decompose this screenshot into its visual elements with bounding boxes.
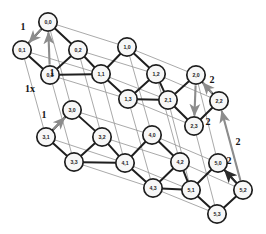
weighted-arrow [29,30,41,43]
dark-edge [82,162,116,163]
node-label: 4,1 [122,160,129,166]
arrow-weight-label: 2 [206,116,211,127]
graph-node[interactable]: 4,2 [171,153,189,171]
graph-node[interactable]: 1,0 [118,38,136,56]
lattice-graph-svg: 0,00,10,20,31,01,11,21,32,02,12,22,33,03… [0,0,266,234]
dark-edge [107,53,121,68]
graph-node[interactable]: 3,2 [93,128,111,146]
graph-node[interactable]: 3,3 [65,153,83,171]
node-label: 3,1 [43,134,50,140]
dark-edge [223,196,237,209]
dark-edge [197,169,212,184]
graph-node[interactable]: 3,0 [63,101,81,119]
arrow-weight-label: 2 [227,155,232,166]
graph-node[interactable]: 5,0 [209,154,227,172]
node-label: 2,3 [191,123,198,129]
dark-edge [52,143,67,157]
gray-edge [56,25,118,45]
arrow-weight-label: 1 [42,109,47,120]
node-label: 2,2 [216,98,223,104]
extra-label: 1x [25,83,35,94]
graph-node[interactable]: 0,1 [13,41,31,59]
node-label: 4,0 [149,132,156,138]
dark-edge [136,99,159,100]
arrow-weight-label: 2 [210,74,215,85]
dark-edge [161,188,182,189]
node-label: 5,1 [188,187,195,193]
graph-node[interactable]: 2,2 [210,92,228,110]
weighted-arrow [194,85,195,115]
graph-node[interactable]: 1,3 [119,90,137,108]
node-label: 1,2 [153,71,160,77]
node-label: 2,1 [165,97,172,103]
extra-label-layer: 1x [25,83,35,94]
node-label: 1,3 [125,96,132,102]
graph-node[interactable]: 0,2 [69,41,87,59]
node-label: 4,2 [177,159,184,165]
graph-node[interactable]: 4,1 [116,154,134,172]
node-label: 1,1 [98,71,105,77]
dark-edge [174,106,188,120]
dark-edge [84,56,95,68]
node-label: 5,3 [214,211,221,217]
graph-node[interactable]: 3,1 [37,128,55,146]
node-label: 2,0 [193,72,200,78]
gray-edge [82,165,144,186]
node-label: 0,1 [19,47,26,53]
node-label: 0,0 [45,19,52,25]
node-label: 0,2 [75,47,82,53]
graph-node[interactable]: 5,3 [208,205,226,223]
node-label: 5,2 [240,187,247,193]
node-label: 5,0 [215,160,222,166]
dark-edge [56,56,71,70]
dark-edge [78,116,96,132]
weighted-arrow [48,32,49,64]
weighted-arrow [225,171,236,183]
arrow-weight-label: 1 [21,21,26,32]
graph-node[interactable]: 1,2 [147,65,165,83]
dark-edge [107,80,122,94]
node-label: 3,3 [71,159,78,165]
diagram-canvas: 0,00,10,20,31,01,11,21,32,02,12,22,33,03… [0,0,266,234]
graph-node[interactable]: 2,1 [159,91,177,109]
graph-node[interactable]: 2,3 [185,117,203,135]
arrow-weight-label: 1 [50,67,55,78]
graph-node[interactable]: 4,0 [143,126,161,144]
node-label: 3,0 [69,107,76,113]
node-label: 1,0 [124,44,131,50]
node-label: 3,2 [99,134,106,140]
graph-node[interactable]: 4,3 [144,179,162,197]
graph-node[interactable]: 2,0 [187,66,205,84]
dark-edge [28,56,43,70]
node-label: 4,3 [150,185,157,191]
dark-edge [108,143,120,156]
dark-edge [80,143,95,157]
dark-edge [54,28,72,45]
graph-node[interactable]: 0,0 [39,13,57,31]
dark-edge [58,74,92,75]
graph-node[interactable]: 5,1 [182,181,200,199]
arrow-weight-label: 2 [236,136,241,147]
graph-node[interactable]: 5,2 [234,181,252,199]
graph-node[interactable]: 1,1 [92,65,110,83]
